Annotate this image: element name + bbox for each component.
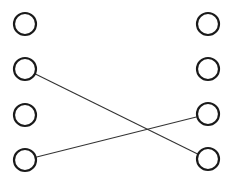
edge-L2-R4 bbox=[35, 74, 198, 154]
bipartite-diagram bbox=[0, 0, 230, 189]
node-R3 bbox=[197, 103, 219, 125]
node-R1 bbox=[197, 13, 219, 35]
node-L3 bbox=[14, 104, 36, 126]
edge-L4-R3 bbox=[36, 117, 198, 158]
node-R2 bbox=[197, 58, 219, 80]
node-L1 bbox=[14, 13, 36, 35]
node-R4 bbox=[197, 148, 219, 170]
nodes-group bbox=[14, 13, 219, 171]
edges-group bbox=[35, 74, 198, 157]
node-L4 bbox=[14, 149, 36, 171]
node-L2 bbox=[14, 58, 36, 80]
